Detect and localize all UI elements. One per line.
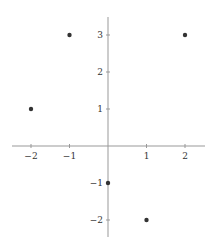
x-axis-ticks: −2−112 — [24, 144, 188, 161]
scatter-plot: −2−112 −2−1123 — [0, 0, 219, 248]
x-tick-label: 1 — [144, 151, 150, 161]
axes — [12, 17, 205, 237]
y-tick-label: 1 — [97, 104, 103, 114]
y-tick-label: −1 — [90, 178, 103, 188]
y-axis-ticks: −2−1123 — [90, 30, 110, 225]
data-point — [29, 107, 33, 111]
data-point — [144, 218, 148, 222]
y-tick-label: 3 — [97, 30, 103, 40]
y-tick-label: 2 — [97, 67, 103, 77]
data-point — [67, 33, 71, 37]
data-point — [183, 33, 187, 37]
data-point — [106, 181, 110, 185]
x-tick-label: −1 — [63, 151, 76, 161]
y-tick-label: −2 — [90, 215, 103, 225]
x-tick-label: 2 — [182, 151, 188, 161]
x-tick-label: −2 — [24, 151, 37, 161]
